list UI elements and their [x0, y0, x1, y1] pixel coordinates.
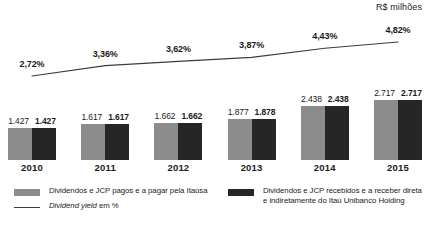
bar-pair	[299, 106, 351, 160]
bar-value-labels: 1.4271.427	[8, 116, 56, 126]
bar-value-received: 2.438	[328, 94, 349, 104]
dividend-chart: R$ milhões 2,72%3,36%3,62%3,87%4,43%4,82…	[0, 0, 430, 229]
bar-paid[interactable]	[81, 124, 105, 160]
legend-item-received[interactable]: Dividendos e JCP recebidos e a receber d…	[228, 186, 428, 205]
bar-received[interactable]	[105, 124, 129, 160]
bar-value-paid: 1.617	[81, 112, 102, 122]
bar-received[interactable]	[252, 119, 276, 160]
legend-label-received-line2: e indiretamente do Itaú Unibanco Holding	[263, 196, 404, 205]
bar-value-received: 1.878	[255, 107, 276, 117]
bar-pair	[79, 124, 131, 160]
bar-group: 1.8771.878	[226, 119, 278, 160]
bar-value-received: 2.717	[401, 88, 422, 98]
yield-value-label: 2,72%	[19, 59, 44, 69]
bar-group: 1.4271.427	[6, 128, 58, 160]
bar-value-labels: 1.6621.662	[155, 111, 203, 121]
bar-paid[interactable]	[374, 100, 398, 160]
bar-paid[interactable]	[228, 119, 252, 160]
legend-label-yield: Dividend yield em %	[49, 201, 119, 211]
yield-value-label: 4,82%	[385, 25, 410, 35]
bar-pair	[6, 128, 58, 160]
x-axis-tick: 2010	[6, 162, 58, 173]
legend-label-yield-italic: Dividend yield	[49, 201, 97, 210]
bar-value-labels: 2.7172.717	[374, 88, 422, 98]
legend-label-received-line1: Dividendos e JCP recebidos e a receber d…	[263, 186, 422, 195]
yield-line-plot	[0, 14, 430, 162]
bar-value-received: 1.617	[108, 112, 129, 122]
x-axis-tick: 2014	[299, 162, 351, 173]
bar-received[interactable]	[325, 106, 349, 160]
legend-label-received: Dividendos e JCP recebidos e a receber d…	[263, 186, 422, 205]
yield-value-label: 3,62%	[166, 44, 191, 54]
legend-label-paid: Dividendos e JCP pagos e a pagar pela It…	[49, 186, 207, 196]
x-axis-tick: 2012	[152, 162, 204, 173]
bar-group: 1.6621.662	[152, 123, 204, 160]
bar-pair	[152, 123, 204, 160]
legend-item-yield[interactable]: Dividend yield em %	[14, 201, 214, 211]
dark-swatch-icon	[228, 189, 254, 196]
bar-value-received: 1.427	[35, 116, 56, 126]
legend-column-left: Dividendos e JCP pagos e a pagar pela It…	[14, 186, 214, 216]
bar-received[interactable]	[32, 128, 56, 160]
legend-item-paid[interactable]: Dividendos e JCP pagos e a pagar pela It…	[14, 186, 214, 196]
bar-value-labels: 2.4382.438	[301, 94, 349, 104]
bar-value-labels: 1.8771.878	[228, 107, 276, 117]
unit-caption: R$ milhões	[376, 2, 422, 12]
bar-group: 2.7172.717	[372, 100, 424, 160]
line-swatch-icon	[14, 207, 40, 208]
bar-value-paid: 1.662	[155, 111, 176, 121]
yield-value-label: 3,36%	[93, 49, 118, 59]
bar-received[interactable]	[178, 123, 202, 160]
bar-paid[interactable]	[301, 106, 325, 160]
x-axis: 201020112012201320142015	[0, 162, 430, 176]
gray-swatch-icon	[14, 189, 40, 196]
bar-pair	[372, 100, 424, 160]
bar-value-paid: 2.438	[301, 94, 322, 104]
bar-value-paid: 1.427	[8, 116, 29, 126]
chart-legend: Dividendos e JCP pagos e a pagar pela It…	[0, 186, 430, 229]
bar-group: 2.4382.438	[299, 106, 351, 160]
yield-line-path	[32, 42, 398, 76]
bar-group: 1.6171.617	[79, 124, 131, 160]
x-axis-tick: 2011	[79, 162, 131, 173]
yield-line-svg	[0, 14, 430, 162]
legend-label-yield-rest: em %	[97, 201, 119, 210]
bar-value-labels: 1.6171.617	[81, 112, 129, 122]
bar-value-received: 1.662	[181, 111, 202, 121]
bar-received[interactable]	[398, 100, 422, 160]
legend-column-right: Dividendos e JCP recebidos e a receber d…	[228, 186, 428, 210]
yield-value-label: 3,87%	[239, 40, 264, 50]
bar-paid[interactable]	[8, 128, 32, 160]
bar-value-paid: 1.877	[228, 107, 249, 117]
bar-pair	[226, 119, 278, 160]
x-axis-tick: 2013	[226, 162, 278, 173]
x-axis-tick: 2015	[372, 162, 424, 173]
yield-value-label: 4,43%	[312, 31, 337, 41]
bar-paid[interactable]	[154, 123, 178, 160]
bar-value-paid: 2.717	[374, 88, 395, 98]
